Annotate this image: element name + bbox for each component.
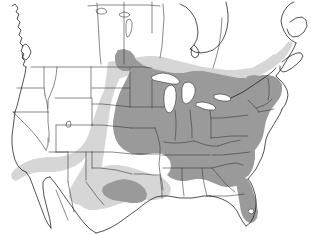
coast-vancouver-island bbox=[22, 44, 31, 60]
border-washington-idaho bbox=[44, 67, 45, 95]
north-america-range-map bbox=[0, 0, 311, 235]
coast-california bbox=[12, 112, 26, 172]
coast-washington-oregon bbox=[15, 67, 26, 112]
range-map-figure bbox=[0, 0, 311, 235]
coast-british-columbia bbox=[12, 4, 26, 67]
